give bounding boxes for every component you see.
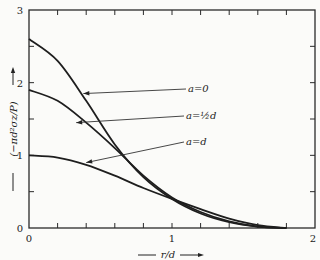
leader-line [83,89,186,94]
svg-text:(−πd²σz/P): (−πd²σz/P) [8,101,19,156]
x-tick-label: 0 [26,233,32,244]
x-axis-title: r/d [138,249,204,260]
x-tick-label: 2 [310,233,316,244]
axis-ticks [29,10,315,228]
leader-line [86,142,184,163]
annotation-a-zero: a=0 [188,83,209,94]
arrowhead-icon [86,159,92,163]
curve-a-zero [29,39,286,228]
y-tick-label: 0 [17,223,23,234]
annotation-a-d: a=d [186,136,207,147]
leader-line [76,116,184,123]
arrowhead-icon [83,91,89,95]
arrowhead-icon [76,120,82,124]
stress-distribution-chart: 0120123a=0a=½da=dr/d(−πd²σz/P) [0,0,320,260]
y-tick-label: 3 [17,5,23,16]
svg-text:r/d: r/d [161,249,176,260]
curve-a-d [29,155,286,228]
x-tick-label: 1 [169,233,175,244]
y-tick-label: 2 [17,78,23,89]
plot-frame [29,10,315,228]
annotation-a-half-d: a=½d [186,110,216,121]
